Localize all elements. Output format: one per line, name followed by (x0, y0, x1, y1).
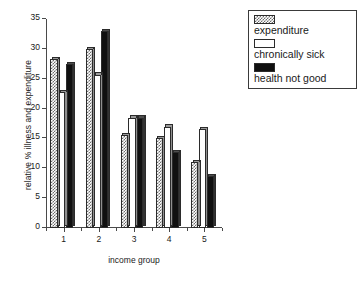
y-tick: 35 (45, 18, 46, 19)
y-tick-label: 0 (35, 221, 40, 231)
y-tick: 20 (45, 108, 46, 109)
bar-face (156, 138, 163, 228)
bar-side (65, 90, 67, 226)
bar-expenditure-group-3 (121, 135, 128, 228)
bar-side (58, 57, 60, 226)
y-tick-mark (42, 78, 46, 79)
legend-label-expenditure: expenditure (253, 24, 352, 38)
bar-side (93, 47, 95, 226)
bar-chart: relative % illness and expenditure 05101… (0, 0, 360, 294)
y-axis-title: relative % illness and expenditure (23, 35, 33, 215)
bar-face (121, 135, 128, 228)
y-tick-label: 35 (31, 12, 40, 22)
bar-expenditure-group-4 (156, 138, 163, 228)
y-tick-mark (42, 137, 46, 138)
bar-expenditure-group-1 (50, 59, 57, 228)
y-tick-label: 15 (31, 131, 40, 141)
x-tick-mark (81, 228, 82, 231)
y-axis-line (46, 19, 47, 228)
x-tick-mark (187, 228, 188, 231)
bar-side (179, 150, 181, 226)
x-tick-mark (204, 228, 205, 232)
y-tick-mark (42, 197, 46, 198)
bar-side (206, 127, 208, 226)
x-tick-mark (46, 228, 47, 231)
y-tick-label: 30 (31, 42, 40, 52)
legend-label-health-not-good: health not good (253, 72, 352, 86)
legend-item: expenditure (253, 15, 352, 38)
x-tick-label: 3 (125, 234, 143, 244)
x-tick-mark (116, 228, 117, 231)
y-tick-mark (42, 18, 46, 19)
y-tick: 10 (45, 167, 46, 168)
bar-side (163, 136, 165, 226)
x-tick-mark (64, 228, 65, 232)
y-tick-label: 25 (31, 72, 40, 82)
bar-side (128, 133, 130, 226)
x-tick-label: 2 (90, 234, 108, 244)
y-tick-mark (42, 167, 46, 168)
x-tick-mark (134, 228, 135, 232)
bar-side (171, 124, 173, 226)
x-tick-mark (222, 228, 223, 231)
legend-swatch-chronically-sick (254, 39, 275, 48)
bar-side (108, 29, 110, 226)
bar-side (143, 115, 145, 225)
x-tick-label: 5 (195, 234, 213, 244)
x-tick-label: 4 (160, 234, 178, 244)
chart-legend: expenditure chronically sick health not … (248, 10, 357, 89)
x-tick-mark (99, 228, 100, 232)
bar-expenditure-group-5 (191, 162, 198, 228)
y-tick-label: 20 (31, 102, 40, 112)
bar-expenditure-group-2 (86, 49, 93, 228)
y-tick: 5 (45, 197, 46, 198)
x-tick-label: 1 (55, 234, 73, 244)
y-tick: 25 (45, 78, 46, 79)
y-tick-label: 5 (35, 191, 40, 201)
legend-swatch-expenditure (254, 15, 275, 24)
y-tick-mark (42, 108, 46, 109)
plot-area: 05101520253035 12345 (46, 19, 222, 228)
y-tick-mark (42, 48, 46, 49)
bar-side (214, 174, 216, 226)
bar-side (136, 115, 138, 225)
bar-face (86, 49, 93, 228)
bar-side (198, 160, 200, 226)
bar-face (191, 162, 198, 228)
bar-side (73, 62, 75, 226)
bar-side (101, 72, 103, 225)
x-axis-title: income group (46, 255, 222, 265)
legend-item: chronically sick (253, 39, 352, 62)
x-tick-mark (169, 228, 170, 232)
bar-face (50, 59, 57, 228)
legend-swatch-health-not-good (254, 63, 275, 72)
x-tick-mark (152, 228, 153, 231)
legend-label-chronically-sick: chronically sick (253, 48, 352, 62)
legend-item: health not good (253, 63, 352, 86)
y-tick: 15 (45, 137, 46, 138)
y-tick-label: 10 (31, 161, 40, 171)
y-tick: 30 (45, 48, 46, 49)
